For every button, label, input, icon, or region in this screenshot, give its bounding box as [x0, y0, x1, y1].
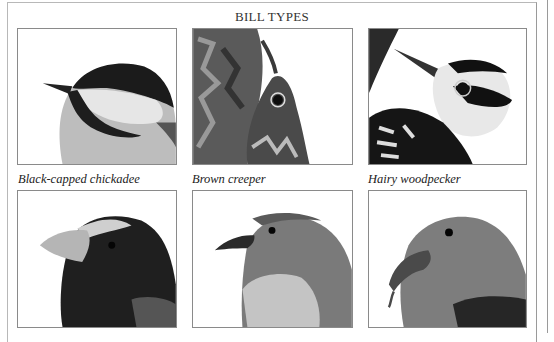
caption-creeper: Brown creeper: [192, 172, 266, 187]
chickadee-image: [18, 29, 176, 164]
tanager-image: [193, 191, 352, 327]
panel-creeper: [192, 28, 353, 165]
panel-tanager: [192, 190, 353, 328]
woodpecker-image: [369, 29, 526, 164]
panel-crossbill: [368, 190, 527, 328]
crossbill-image: [369, 191, 526, 327]
grosbeak-image: [18, 191, 176, 327]
page-title: BILL TYPES: [0, 9, 544, 25]
caption-woodpecker: Hairy woodpecker: [368, 172, 461, 187]
panel-grosbeak: [17, 190, 177, 328]
creeper-image: [193, 29, 352, 164]
panel-chickadee: [17, 28, 177, 165]
side-rule: [547, 0, 548, 333]
caption-chickadee: Black-capped chickadee: [18, 172, 140, 187]
panel-woodpecker: [368, 28, 527, 165]
